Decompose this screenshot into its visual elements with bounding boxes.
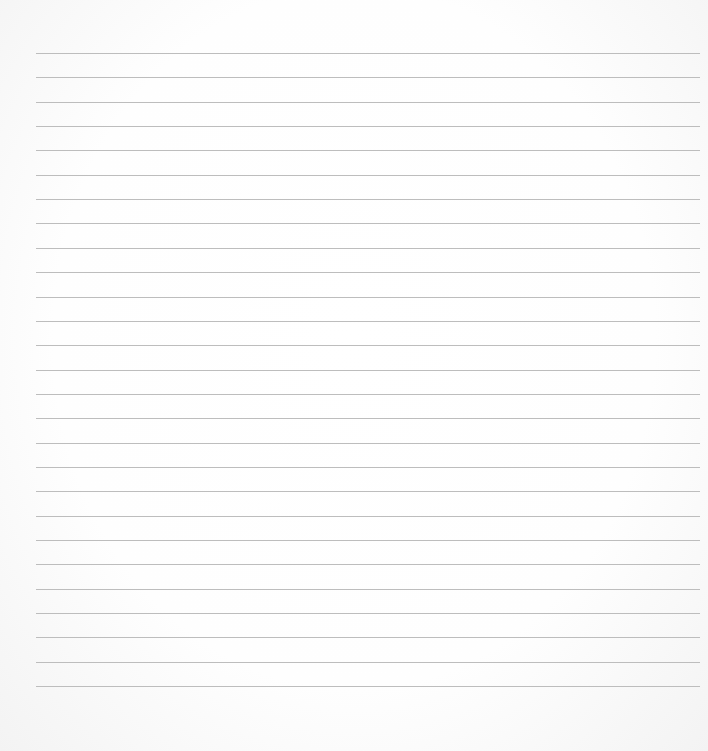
ruled-line	[36, 443, 700, 444]
ruled-line	[36, 102, 700, 103]
ruled-line	[36, 199, 700, 200]
ruled-line	[36, 126, 700, 127]
ruled-line	[36, 589, 700, 590]
ruled-line	[36, 418, 700, 419]
ruled-line	[36, 272, 700, 273]
ruled-line	[36, 223, 700, 224]
ruled-line	[36, 297, 700, 298]
ruled-line	[36, 540, 700, 541]
ruled-line	[36, 53, 700, 54]
ruled-line	[36, 175, 700, 176]
ruled-line	[36, 662, 700, 663]
ruled-line	[36, 516, 700, 517]
ruled-line	[36, 467, 700, 468]
ruled-line	[36, 491, 700, 492]
ruled-line	[36, 637, 700, 638]
ruled-line	[36, 150, 700, 151]
ruled-line	[36, 564, 700, 565]
ruled-line	[36, 321, 700, 322]
ruled-line	[36, 345, 700, 346]
ruled-line	[36, 370, 700, 371]
ruled-line	[36, 248, 700, 249]
ruled-line	[36, 686, 700, 687]
ruled-line	[36, 394, 700, 395]
ruled-line	[36, 613, 700, 614]
ruled-line	[36, 77, 700, 78]
lined-paper-sheet	[0, 0, 708, 751]
